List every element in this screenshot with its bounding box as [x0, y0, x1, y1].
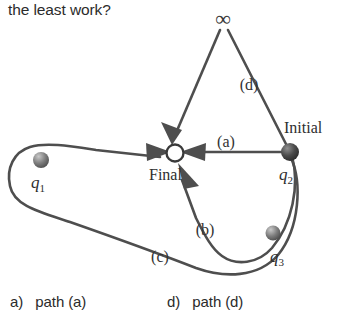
- infinity-symbol: ∞: [215, 6, 231, 31]
- charge-label-q2-subscript: 2: [288, 174, 294, 186]
- charge-label-q2: q2: [279, 165, 293, 186]
- answer-option-a-letter: a): [10, 293, 23, 310]
- initial-node-label: Initial: [284, 119, 323, 136]
- answer-option-d-letter: d): [167, 293, 180, 310]
- physics-question-figure: the least work?: [0, 0, 347, 319]
- answer-option-a-text: path (a): [35, 293, 86, 310]
- charge-label-q1-subscript: 1: [40, 182, 46, 194]
- path-d-line-down: [176, 30, 220, 133]
- charge-sphere-q1: [33, 152, 49, 168]
- charge-label-q1: q1: [31, 173, 45, 194]
- charge-sphere-q3: [266, 226, 281, 241]
- answer-option-d-text: path (d): [192, 293, 243, 310]
- path-diagram: ∞ Initial Final (a) (b) (c) (d) q1 q2 q3: [0, 0, 347, 319]
- path-label-c: (c): [151, 248, 169, 266]
- final-node-label: Final: [149, 166, 182, 183]
- answer-option-a[interactable]: a) path (a): [10, 293, 86, 310]
- answer-option-d[interactable]: d) path (d): [167, 293, 243, 310]
- path-label-a: (a): [217, 133, 235, 151]
- final-node: [167, 145, 184, 162]
- path-label-d: (d): [240, 76, 259, 94]
- charge-sphere-q2: [281, 143, 299, 161]
- charge-label-q3-subscript: 3: [279, 256, 285, 268]
- path-label-b: (b): [196, 221, 215, 239]
